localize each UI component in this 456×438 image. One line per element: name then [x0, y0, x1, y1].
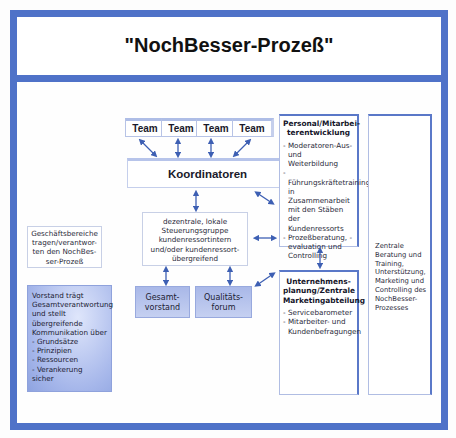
business-units-box[interactable]: Geschäftsbereiche tragen/verantwor-ten d…	[27, 226, 102, 268]
board-note-item: Ressourcen	[32, 355, 107, 364]
central-support-box[interactable]: Zentrale Beratung und Training, Unterstü…	[368, 114, 432, 395]
board-note-outro: sicher	[32, 374, 107, 383]
board-note-item: Prinzipien	[32, 346, 107, 355]
coordinators-box[interactable]: Koordinatoren	[127, 158, 291, 188]
title-panel: "NochBesser-Prozeß"	[17, 17, 441, 75]
planning-list: Servicebarometer Mitarbeiter- und Kunden…	[283, 308, 354, 336]
planning-heading: Unternehmens-planung/Zentrale Marketinga…	[283, 277, 354, 305]
corporate-planning-box[interactable]: Unternehmens-planung/Zentrale Marketinga…	[279, 270, 359, 395]
diagram-title: "NochBesser-Prozeß"	[17, 34, 441, 57]
board-note-list: Grundsätze Prinzipien Ressourcen Veranke…	[32, 337, 107, 374]
board-note-box[interactable]: Vorstand trägt Gesamtverantwortung und s…	[27, 285, 112, 392]
board-note-item: Verankerung	[32, 365, 107, 374]
planning-item: Servicebarometer	[283, 308, 354, 317]
personnel-item: Führungskräftetraining in Zusammenarbeit…	[283, 168, 354, 232]
quality-forum-box[interactable]: Qualitäts-forum	[195, 286, 252, 318]
personnel-development-box[interactable]: Personal/Mitarbei-terentwicklung Moderat…	[279, 114, 359, 247]
personnel-item: Prozeßberatung, -evaluation und Controll…	[283, 233, 354, 261]
personnel-item: Moderatoren-Aus- und Weiterbildung	[283, 141, 354, 169]
board-note-intro: Vorstand trägt Gesamtverantwortung und s…	[32, 291, 107, 337]
executive-board-box[interactable]: Gesamt-vorstand	[135, 286, 190, 318]
personnel-heading: Personal/Mitarbei-terentwicklung	[283, 119, 354, 138]
planning-item: Mitarbeiter- und Kundenbefragungen	[283, 317, 354, 335]
personnel-list: Moderatoren-Aus- und Weiterbildung Führu…	[283, 141, 354, 261]
steering-group-box[interactable]: dezentrale, lokale Steuerungsgruppe kund…	[142, 212, 248, 266]
board-note-item: Grundsätze	[32, 337, 107, 346]
team-box-4[interactable]: Team	[232, 118, 274, 137]
